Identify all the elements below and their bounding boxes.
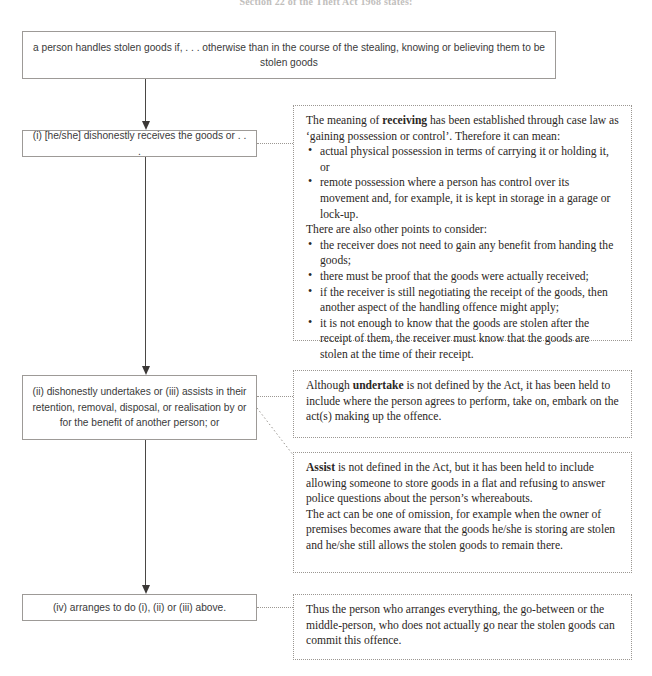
list-item: remote possession where a person has con… [306, 175, 620, 222]
list-item: there must be proof that the goods were … [306, 269, 620, 285]
arrow-statute-to-limb-i [145, 79, 146, 122]
flow-box-limb-ii-iii: (ii) dishonestly undertakes or (iii) ass… [22, 375, 257, 440]
arrow-limb-i-to-limb-ii [145, 157, 146, 367]
list-item: the receiver does not need to gain any b… [306, 238, 620, 269]
flow-box-statute: a person handles stolen goods if, . . . … [22, 31, 556, 79]
note-undertake-text: Although undertake is not defined by the… [306, 378, 620, 425]
flow-box-limb-iv: (iv) arranges to do (i), (ii) or (iii) a… [22, 594, 257, 621]
flow-box-limb-i: (i) [he/she] dishonestly receives the go… [22, 130, 257, 157]
note-arranges-text: Thus the person who arranges everything,… [306, 602, 620, 649]
note-box-assist: Assist is not defined in the Act, but it… [293, 452, 632, 573]
note-undertake-keyword: undertake [353, 379, 404, 392]
connector-limb-ii-to-note-undertake [257, 396, 293, 397]
connector-limb-iii-to-note-assist [257, 408, 297, 460]
arrow-limb-iii-to-limb-iv [145, 440, 146, 586]
list-item: if the receiver is still negotiating the… [306, 285, 620, 316]
note-box-receiving: The meaning of receiving has been establ… [293, 105, 632, 341]
list-item: it is not enough to know that the goods … [306, 316, 620, 363]
note-assist-lead-suffix: is not defined in the Act, but it has be… [306, 461, 605, 505]
note-box-arranges: Thus the person who arranges everything,… [293, 594, 632, 660]
note-receiving-bullets-1: actual physical possession in terms of c… [306, 144, 620, 222]
connector-limb-iv-to-note-arranges [257, 607, 293, 608]
note-receiving-keyword: receiving [382, 114, 427, 127]
note-receiving-bullets-2: the receiver does not need to gain any b… [306, 238, 620, 363]
note-receiving-lead-prefix: The meaning of [306, 114, 382, 127]
note-receiving-mid-text: There are also other points to consider: [306, 222, 620, 238]
note-undertake-lead-prefix: Although [306, 379, 353, 392]
note-assist-text: Assist is not defined in the Act, but it… [306, 460, 620, 507]
note-box-undertake: Although undertake is not defined by the… [293, 370, 632, 438]
note-assist-paragraph-2: The act can be one of omission, for exam… [306, 507, 620, 554]
connector-limb-i-to-note-receiving [257, 143, 293, 144]
note-assist-keyword: Assist [306, 461, 335, 474]
page-heading: Section 22 of the Theft Act 1968 states: [0, 0, 652, 5]
list-item: actual physical possession in terms of c… [306, 144, 620, 175]
note-receiving-lead: The meaning of receiving has been establ… [306, 113, 620, 144]
